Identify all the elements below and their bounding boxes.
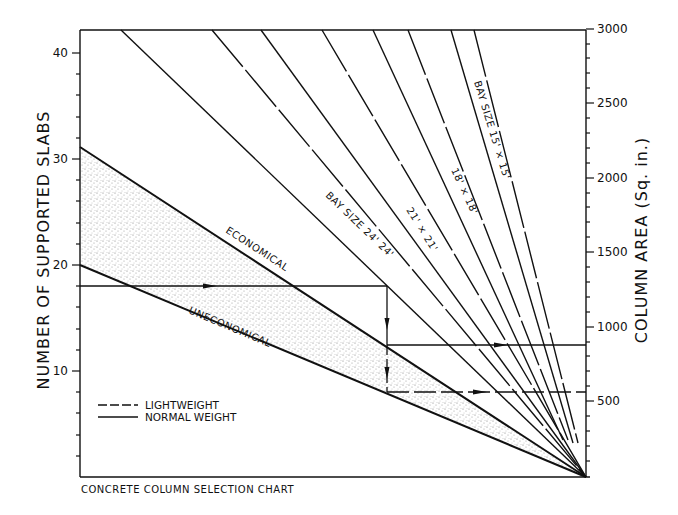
right-axis-title: COLUMN AREA (Sq. in.) [632, 137, 651, 343]
left-axis-ticks [72, 53, 80, 456]
uneconomical-line [80, 265, 586, 477]
legend-lightweight-label: LIGHTWEIGHT [145, 399, 220, 411]
bay-15-light-line [474, 30, 578, 443]
bay-18-label: 18' × 18' [449, 166, 480, 216]
right-tick-1000: 1000 [597, 320, 628, 334]
arrow-right-icon [473, 390, 487, 395]
arrow-right-icon [494, 343, 508, 348]
right-tick-2000: 2000 [597, 171, 628, 185]
bay-21-label: 21' × 21' [404, 205, 440, 253]
arrow-down-icon [385, 318, 390, 330]
concrete-column-selection-chart: 10 20 30 40 500 1000 1500 [0, 0, 678, 515]
bay-15-label: BAY SIZE 15' × 15' [472, 79, 513, 180]
right-tick-1500: 1500 [597, 245, 628, 259]
right-tick-500: 500 [597, 394, 620, 408]
legend: LIGHTWEIGHT NORMAL WEIGHT [98, 399, 237, 423]
right-tick-2500: 2500 [597, 96, 628, 110]
right-axis-ticks [586, 29, 594, 461]
left-tick-40: 40 [53, 46, 68, 60]
right-tick-3000: 3000 [597, 22, 628, 36]
left-tick-30: 30 [53, 152, 68, 166]
legend-normal-label: NORMAL WEIGHT [145, 411, 237, 423]
left-tick-10: 10 [53, 364, 68, 378]
left-axis-title: NUMBER OF SUPPORTED SLABS [34, 111, 53, 390]
chart-caption: CONCRETE COLUMN SELECTION CHART [81, 484, 294, 495]
left-tick-20: 20 [53, 258, 68, 272]
